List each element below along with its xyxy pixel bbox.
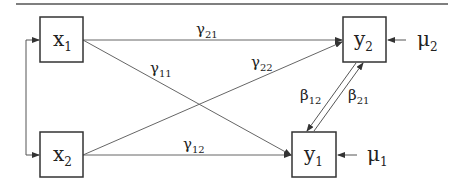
label-beta12: β12: [300, 86, 321, 106]
covariance-x1-x2: [26, 40, 39, 155]
error-label-mu1: μ1: [367, 142, 388, 169]
label-beta21: β21: [348, 86, 369, 106]
node-x1: x1: [40, 17, 83, 62]
error-label-mu2: μ2: [417, 27, 438, 54]
label-gamma11: γ11: [150, 59, 172, 79]
label-gamma22: γ22: [251, 53, 273, 73]
node-x2: x2: [40, 132, 83, 177]
node-y2: y2: [343, 17, 386, 62]
path-diagram: x1 x2 y1 y2 μ2 μ1 γ21 γ11 γ22 γ12 β12 β2…: [0, 0, 464, 189]
label-gamma21: γ21: [196, 20, 218, 40]
node-y1: y1: [292, 132, 336, 177]
label-gamma12: γ12: [183, 135, 205, 155]
